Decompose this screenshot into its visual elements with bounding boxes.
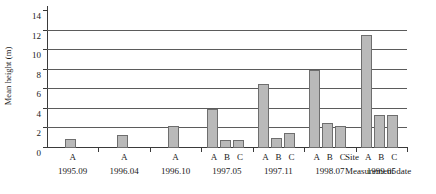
plot-inner: 02468101214 (47, 11, 407, 148)
date-label: 1997.11 (253, 164, 304, 178)
bar-chart: Mean height (m) 02468101214 A1995.09A199… (0, 0, 436, 194)
bar (387, 115, 398, 148)
bar (335, 126, 346, 148)
x-group-label: A1995.09 (47, 150, 98, 178)
site-label: B (323, 150, 336, 164)
bar (271, 138, 282, 148)
y-tick (43, 127, 47, 128)
site-label: A (310, 150, 323, 164)
x-group-label: ABC1997.05 (201, 150, 252, 178)
x-group-label: A1996.04 (98, 150, 149, 178)
gridline (47, 49, 407, 50)
site-label-row: A (150, 150, 201, 164)
axis-caption: Site Measurement date (345, 150, 436, 178)
bar (233, 140, 244, 148)
x-axis-title: Measurement date (345, 164, 436, 178)
y-tick (43, 108, 47, 109)
y-tick (43, 10, 47, 11)
date-label: 1996.04 (98, 164, 149, 178)
site-label: A (169, 150, 182, 164)
bar (65, 139, 76, 148)
bar (361, 35, 372, 149)
site-label: A (66, 150, 79, 164)
bar (220, 140, 231, 148)
gridline (47, 127, 407, 128)
y-tick (43, 30, 47, 31)
site-label: A (259, 150, 272, 164)
site-label: B (220, 150, 233, 164)
y-tick (43, 147, 47, 148)
bar (168, 126, 179, 148)
bar (322, 123, 333, 148)
bar (117, 135, 128, 148)
site-label: A (118, 150, 131, 164)
site-label-row: ABC (253, 150, 304, 164)
site-label: A (207, 150, 220, 164)
x-group-label: ABC1997.11 (253, 150, 304, 178)
gridline (47, 69, 407, 70)
site-label-row: A (47, 150, 98, 164)
y-tick (43, 49, 47, 50)
bar (284, 133, 295, 148)
site-label: B (272, 150, 285, 164)
date-label: 1996.10 (150, 164, 201, 178)
y-axis-title: Mean height (m) (0, 0, 16, 152)
y-tick (43, 88, 47, 89)
site-label: C (233, 150, 246, 164)
site-axis-label: Site (345, 150, 436, 164)
site-label: C (285, 150, 298, 164)
y-axis-title-label: Mean height (m) (3, 47, 13, 106)
bar (207, 109, 218, 148)
gridline (47, 108, 407, 109)
x-group-label: A1996.10 (150, 150, 201, 178)
date-label: 1995.09 (47, 164, 98, 178)
y-tick (43, 69, 47, 70)
date-label: 1997.05 (201, 164, 252, 178)
bar (374, 115, 385, 148)
site-label-row: ABC (201, 150, 252, 164)
gridline (47, 88, 407, 89)
bar (258, 84, 269, 148)
site-label-row: A (98, 150, 149, 164)
gridline (47, 30, 407, 31)
plot-area: 02468101214 (47, 11, 407, 148)
bar (309, 70, 320, 148)
